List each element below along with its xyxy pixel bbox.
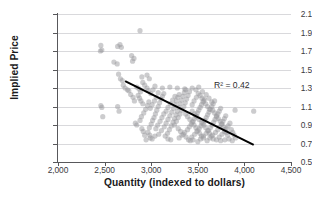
scatter-point: [167, 84, 172, 89]
scatter-point: [147, 76, 152, 81]
scatter-point: [100, 114, 105, 119]
scatter-point: [140, 101, 145, 106]
scatter-point: [152, 84, 157, 89]
scatter-point: [187, 89, 192, 94]
y-axis-tick-label: 1.3: [260, 84, 312, 92]
scatter-point: [146, 99, 151, 104]
y-axis-tick-label: 1.9: [260, 29, 312, 37]
scatter-point: [99, 105, 104, 110]
scatter-chart: Implied Price Quantity (indexed to dolla…: [0, 0, 312, 197]
scatter-point: [161, 91, 166, 96]
scatter-point: [98, 48, 103, 53]
scatter-point: [230, 138, 235, 143]
x-axis-tick-label: 4,500: [270, 166, 312, 175]
y-axis-tick: [53, 107, 57, 108]
y-axis-tick: [53, 125, 57, 126]
scatter-point: [116, 109, 121, 114]
scatter-point: [137, 28, 142, 33]
x-axis-title: Quantity (indexed to dollars): [57, 177, 292, 188]
y-axis-tick-label: 1.1: [260, 103, 312, 111]
scatter-point: [142, 83, 147, 88]
scatter-point: [191, 137, 196, 142]
scatter-point: [175, 85, 180, 90]
scatter-point: [212, 98, 217, 103]
scatter-point: [232, 108, 237, 113]
r-squared-annotation: R² = 0.42: [214, 80, 250, 90]
y-axis-tick-label: 0.7: [260, 140, 312, 148]
scatter-point: [119, 45, 124, 50]
scatter-point: [211, 136, 216, 141]
x-axis-tick-label: 2,000: [37, 166, 79, 175]
scatter-point: [130, 59, 135, 64]
scatter-point: [168, 137, 173, 142]
scatter-point: [115, 61, 120, 66]
y-axis-tick: [53, 14, 57, 15]
scatter-point: [160, 85, 165, 90]
scatter-point: [156, 90, 161, 95]
scatter-point: [172, 94, 177, 99]
y-axis-tick: [53, 144, 57, 145]
x-axis-tick-label: 2,500: [84, 166, 126, 175]
scatter-point: [150, 136, 155, 141]
scatter-point: [115, 104, 120, 109]
scatter-point: [196, 84, 201, 89]
scatter-point: [223, 113, 228, 118]
scatter-point: [132, 98, 137, 103]
scatter-point: [139, 74, 144, 79]
y-axis-tick-label: 1.5: [260, 66, 312, 74]
scatter-point: [201, 135, 206, 140]
x-axis-tick-label: 4,000: [223, 166, 265, 175]
scatter-point: [116, 72, 121, 77]
scatter-point: [161, 111, 166, 116]
y-axis-title: Implied Price: [9, 13, 20, 123]
y-axis-tick: [53, 88, 57, 89]
scatter-point: [227, 121, 232, 126]
y-axis-tick: [53, 33, 57, 34]
scatter-point: [218, 106, 223, 111]
y-axis-tick: [53, 70, 57, 71]
y-axis-tick: [53, 51, 57, 52]
y-axis-tick-label: 2.1: [260, 10, 312, 18]
x-axis-tick-label: 3,500: [177, 166, 219, 175]
scatter-point: [182, 86, 187, 91]
scatter-point: [184, 134, 189, 139]
scatter-point: [134, 122, 139, 127]
y-axis-tick-label: 1.7: [260, 47, 312, 55]
scatter-point: [98, 43, 103, 48]
y-axis-tick-label: 0.9: [260, 121, 312, 129]
scatter-point: [120, 78, 125, 83]
x-axis-tick-label: 3,000: [130, 166, 172, 175]
y-axis-tick: [53, 162, 57, 163]
scatter-point: [251, 109, 256, 114]
